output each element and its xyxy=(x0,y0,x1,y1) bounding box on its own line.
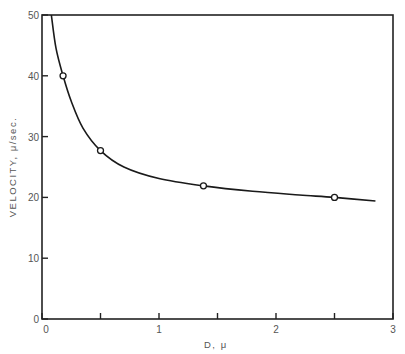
axis-tick-labels: 012301020304050 xyxy=(28,10,396,335)
y-tick-label: 30 xyxy=(28,132,40,143)
x-tick-label: 3 xyxy=(390,324,396,335)
y-axis-label: VELOCITY, μ/sec. xyxy=(7,117,18,218)
y-tick-label: 0 xyxy=(33,314,39,325)
x-tick-label: 2 xyxy=(273,324,279,335)
x-axis-label: D, μ xyxy=(204,339,228,350)
data-point-marker xyxy=(98,148,104,154)
data-point-marker xyxy=(332,194,338,200)
plot-frame xyxy=(42,15,393,319)
fitted-curve-line xyxy=(51,15,375,201)
plot-border xyxy=(42,15,393,319)
x-tick-label: 1 xyxy=(156,324,162,335)
axis-ticks xyxy=(42,15,393,319)
velocity-chart: 012301020304050 D, μ VELOCITY, μ/sec. xyxy=(0,0,405,354)
data-points xyxy=(60,73,337,201)
y-tick-label: 50 xyxy=(28,10,40,21)
x-tick-label: 0 xyxy=(43,324,49,335)
y-tick-label: 10 xyxy=(28,253,40,264)
curve-group xyxy=(51,15,375,201)
data-point-marker xyxy=(60,73,66,79)
y-tick-label: 20 xyxy=(28,192,40,203)
y-tick-label: 40 xyxy=(28,71,40,82)
data-point-marker xyxy=(200,183,206,189)
